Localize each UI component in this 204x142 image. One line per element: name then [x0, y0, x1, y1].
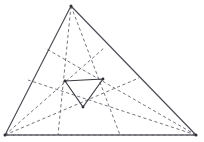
marker-bottom-left — [4, 134, 7, 137]
marker-inner-left — [64, 80, 67, 83]
figure-container — [0, 0, 204, 142]
marker-inner-right — [102, 78, 105, 81]
marker-inner-bottom — [82, 106, 85, 109]
marker-apex — [70, 5, 73, 8]
marker-bottom-right — [195, 134, 198, 137]
triangle-diagram — [0, 0, 204, 142]
